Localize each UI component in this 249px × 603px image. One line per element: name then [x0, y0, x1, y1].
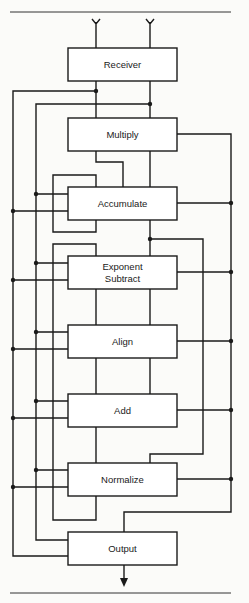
output-arrow-icon — [120, 565, 128, 587]
left-taps — [13, 194, 68, 487]
accumulate-block: Accumulate — [68, 187, 177, 220]
antenna-icon — [92, 19, 100, 48]
output-label: Output — [108, 543, 137, 554]
receiver-label: Receiver — [104, 59, 142, 70]
add-block: Add — [68, 394, 177, 427]
multiply-label: Multiply — [106, 129, 138, 140]
align-label: Align — [112, 336, 133, 347]
pipeline-diagram: Receiver Multiply Accumulate Exponent Su… — [0, 0, 249, 603]
exponent-subtract-label-1: Exponent — [102, 261, 143, 272]
exponent-subtract-block: Exponent Subtract — [68, 256, 177, 289]
align-block: Align — [68, 325, 177, 358]
receiver-block: Receiver — [68, 48, 177, 81]
multiply-block: Multiply — [68, 118, 177, 151]
antenna-icon — [146, 19, 154, 48]
normalize-label: Normalize — [101, 474, 144, 485]
output-block: Output — [68, 532, 177, 565]
accumulate-label: Accumulate — [98, 198, 148, 209]
add-label: Add — [114, 405, 131, 416]
exponent-subtract-label-2: Subtract — [105, 273, 141, 284]
normalize-block: Normalize — [68, 463, 177, 496]
